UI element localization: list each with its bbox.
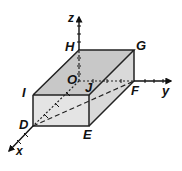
vertex-label-I: I xyxy=(22,86,26,99)
vertex-label-O: O xyxy=(67,73,77,86)
z-axis-label: z xyxy=(68,12,74,24)
x-axis-label: x xyxy=(16,145,23,157)
vertex-label-G: G xyxy=(136,39,146,52)
y-axis-label: y xyxy=(162,84,169,97)
vertex-label-D: D xyxy=(19,118,28,131)
front-face xyxy=(33,95,89,126)
vertex-label-E: E xyxy=(83,128,92,141)
vertex-label-H: H xyxy=(65,40,74,53)
vertex-label-F: F xyxy=(131,84,139,97)
vertex-label-J: J xyxy=(85,81,92,94)
